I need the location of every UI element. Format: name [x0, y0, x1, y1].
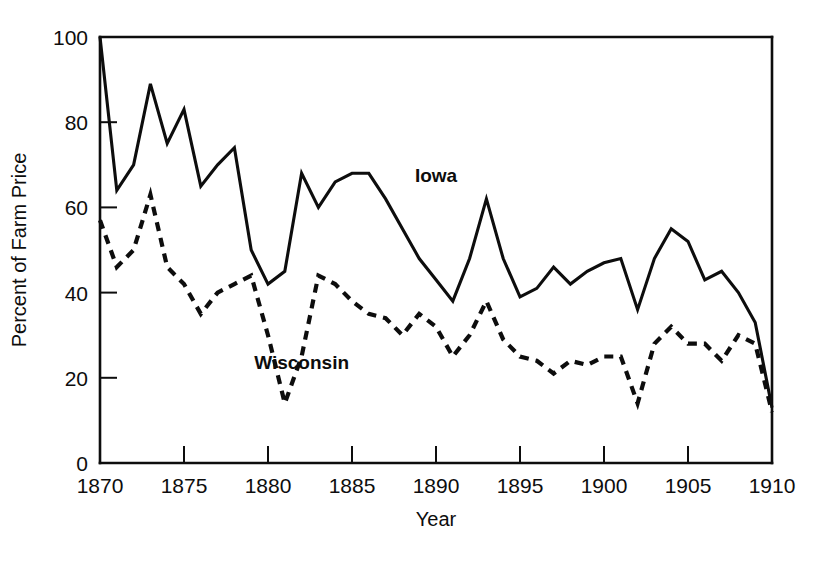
y-axis-title: Percent of Farm Price	[8, 153, 30, 348]
x-axis-tick-label: 1870	[77, 474, 124, 497]
x-axis-tick-label: 1905	[665, 474, 712, 497]
series-label-wisconsin: Wisconsin	[254, 352, 349, 373]
x-axis-tick-label: 1885	[329, 474, 376, 497]
y-axis-tick-label: 0	[76, 452, 88, 475]
series-label-iowa: Iowa	[415, 165, 458, 186]
x-axis-tick-label: 1890	[413, 474, 460, 497]
x-axis-tick-label: 1875	[161, 474, 208, 497]
x-axis-tick-label: 1880	[245, 474, 292, 497]
x-axis-tick-label: 1895	[497, 474, 544, 497]
x-axis-tick-label: 1910	[749, 474, 796, 497]
y-axis-tick-label: 100	[53, 26, 88, 49]
x-axis-tick-label: 1900	[581, 474, 628, 497]
line-chart: 187018751880188518901895190019051910 020…	[0, 0, 818, 564]
chart-figure: 187018751880188518901895190019051910 020…	[0, 0, 818, 564]
y-axis-tick-label: 40	[65, 282, 88, 305]
y-axis-tick-label: 80	[65, 111, 88, 134]
y-axis-tick-label: 60	[65, 196, 88, 219]
x-axis-title: Year	[416, 508, 457, 530]
y-axis-tick-label: 20	[65, 367, 88, 390]
x-axis-tick-labels: 187018751880188518901895190019051910	[77, 474, 796, 497]
